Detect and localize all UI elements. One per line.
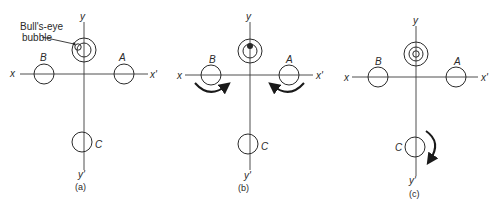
label-y: y — [79, 11, 86, 22]
rotation-arrow-c-icon — [426, 131, 435, 160]
label-c: C — [395, 142, 403, 153]
screw-c — [238, 134, 258, 154]
label-a: A — [453, 56, 461, 67]
leveling-diagram: Bull's-eye bubble y x x' y' B A C (a) y … — [0, 0, 497, 205]
label-b: B — [209, 54, 216, 65]
label-x-prime: x' — [480, 72, 489, 83]
label-x-prime: x' — [149, 69, 158, 80]
label-c: C — [261, 141, 269, 152]
label-x: x — [176, 70, 183, 81]
caption-a: (a) — [75, 182, 86, 192]
label-c: C — [95, 139, 103, 150]
caption-c: (c) — [409, 189, 420, 199]
caption-b: (b) — [238, 183, 249, 193]
label-x-prime: x' — [315, 70, 324, 81]
label-y-prime: y' — [243, 170, 252, 181]
label-x: x — [9, 68, 16, 79]
panel-a: Bull's-eye bubble y x x' y' B A C (a) — [9, 11, 158, 192]
label-y-prime: y' — [408, 175, 417, 186]
screw-c — [72, 132, 92, 152]
panel-c: y x x' y' B A C (c) — [343, 15, 489, 199]
rotation-arrow-b-icon — [195, 83, 226, 92]
bubble — [247, 43, 253, 49]
label-y: y — [412, 15, 419, 26]
leader-dot — [73, 43, 76, 46]
rotation-arrow-a-icon — [273, 83, 304, 92]
annotation-line-1: Bull's-eye — [20, 21, 63, 32]
label-b: B — [375, 56, 382, 67]
label-b: B — [40, 52, 47, 63]
panel-b: y x x' y' B A C (b) — [176, 11, 324, 193]
label-a: A — [285, 54, 293, 65]
label-x: x — [343, 72, 350, 83]
label-y-prime: y' — [77, 169, 86, 180]
label-a: A — [118, 52, 126, 63]
label-y: y — [245, 11, 252, 22]
screw-c — [405, 137, 425, 157]
annotation-line-2: bubble — [22, 32, 52, 43]
